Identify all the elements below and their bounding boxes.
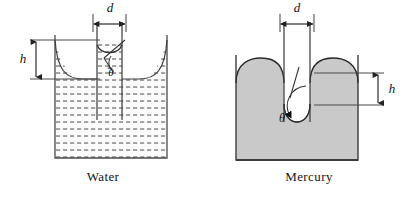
capillarity-figure: d h θ	[0, 0, 412, 201]
water-label-d: d	[107, 0, 114, 15]
mercury-label-h: h	[389, 81, 396, 96]
caption-water: Water	[0, 169, 206, 185]
mercury-label-d: d	[294, 0, 301, 15]
mercury-capillary-tube	[284, 22, 310, 122]
water-diameter-dimension: d	[93, 0, 126, 32]
water-label-theta: θ	[108, 66, 114, 78]
water-label-h: h	[20, 51, 27, 66]
mercury-diameter-dimension: d	[280, 0, 314, 32]
mercury-label-theta: θ	[279, 111, 285, 125]
caption-mercury: Mercury	[206, 169, 412, 185]
